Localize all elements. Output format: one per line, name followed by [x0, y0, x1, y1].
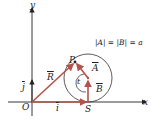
vector-B-label: B [96, 85, 103, 94]
y-axis-label: y [30, 1, 35, 10]
vector-A-label: A [92, 64, 99, 73]
vector-i-label: i [56, 104, 59, 113]
origin-label: O [22, 103, 29, 112]
point-P-label: P [69, 56, 75, 65]
magnitude-equation: |A| = |B| = a [95, 39, 143, 47]
vector-R [32, 64, 73, 102]
point-S-label: S [85, 105, 91, 114]
angle-t-label: t [77, 78, 80, 86]
vector-R-label: R [47, 73, 54, 82]
vector-j-label: j [22, 83, 25, 92]
vector-A [77, 64, 88, 78]
point-center [87, 77, 89, 79]
x-axis-label: x [143, 98, 148, 107]
